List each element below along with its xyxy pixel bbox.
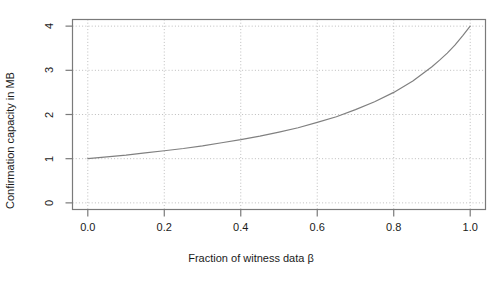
y-tick-label-text: 0 — [42, 188, 56, 218]
tick-marks — [66, 26, 471, 216]
chart-figure: 0.00.20.40.60.81.0 01234 Fraction of wit… — [0, 0, 502, 281]
y-tick-label-text: 2 — [42, 100, 56, 130]
x-tick-label: 0.4 — [233, 221, 248, 233]
y-tick-label-text: 4 — [42, 11, 56, 41]
y-tick-label-text: 3 — [42, 55, 56, 85]
y-tick-label-text: 1 — [42, 144, 56, 174]
y-axis-title: Confirmation capacity in MB — [0, 0, 20, 281]
gridlines — [73, 20, 486, 210]
x-tick-label: 0.8 — [386, 221, 401, 233]
y-tick-label: 3 — [34, 63, 64, 77]
y-tick-label: 1 — [34, 152, 64, 166]
plot-border — [73, 20, 486, 210]
y-tick-label: 2 — [34, 108, 64, 122]
series-line — [88, 26, 470, 159]
x-tick-label: 0.6 — [310, 221, 325, 233]
x-axis-title: Fraction of witness data β — [0, 252, 502, 264]
x-tick-label: 1.0 — [463, 221, 478, 233]
plot-area — [0, 0, 502, 281]
x-tick-label: 0.2 — [157, 221, 172, 233]
x-tick-label: 0.0 — [80, 221, 95, 233]
y-tick-label: 4 — [34, 19, 64, 33]
y-tick-label: 0 — [34, 196, 64, 210]
data-series — [88, 26, 470, 159]
plot-frame — [73, 20, 486, 210]
